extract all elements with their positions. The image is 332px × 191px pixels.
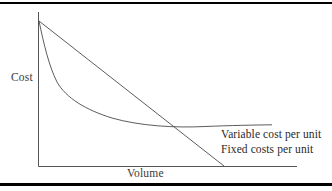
series-line-fixed-costs <box>39 21 224 166</box>
chart-plot-area <box>0 0 332 191</box>
series-curve-variable-cost <box>39 21 272 127</box>
series-label-fixed-costs: Fixed costs per unit <box>221 144 313 156</box>
series-label-variable-cost: Variable cost per unit <box>221 129 321 141</box>
y-axis-label: Cost <box>11 72 33 84</box>
bottom-divider-rule <box>0 183 332 186</box>
figure-container: Cost Volume Variable cost per unit Fixed… <box>0 0 332 191</box>
x-axis-label: Volume <box>127 168 164 180</box>
